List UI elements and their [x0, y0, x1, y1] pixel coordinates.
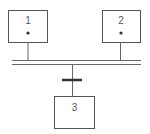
- step-3-label: 3: [72, 102, 78, 113]
- step-3[interactable]: 3: [55, 97, 95, 129]
- grafcet-diagram: 1 2 3: [0, 0, 150, 134]
- step-2-token-icon: [119, 31, 122, 34]
- step-2-label: 2: [118, 15, 124, 26]
- step-1[interactable]: 1: [9, 11, 48, 43]
- step-1-token-icon: [26, 31, 29, 34]
- step-2[interactable]: 2: [103, 11, 141, 43]
- step-1-label: 1: [25, 15, 31, 26]
